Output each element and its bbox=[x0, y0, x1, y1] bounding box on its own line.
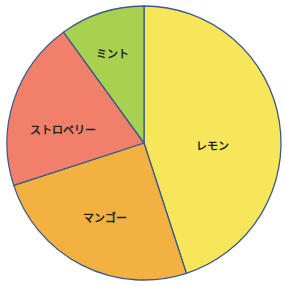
slice-label-mint: ミント bbox=[96, 45, 129, 61]
pie-chart bbox=[0, 0, 285, 286]
slice-label-mango: マンゴー bbox=[83, 209, 127, 225]
slice-label-lemon: レモン bbox=[196, 137, 229, 153]
slice-label-strawberry: ストロベリー bbox=[30, 121, 96, 137]
